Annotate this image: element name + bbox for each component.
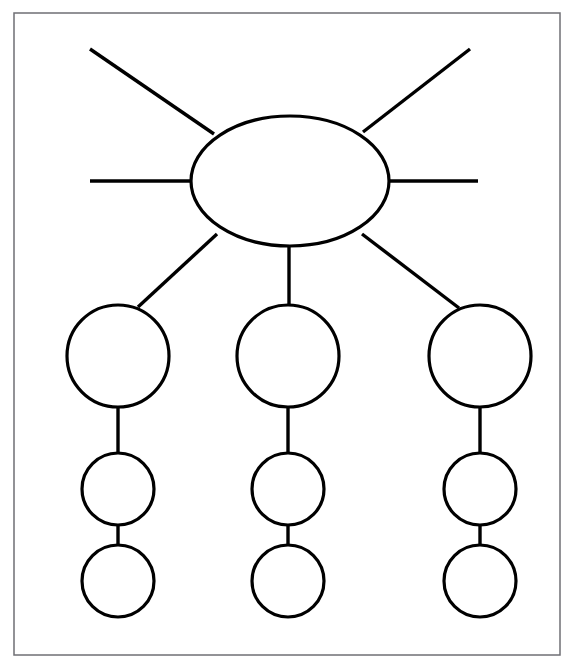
diagram-frame xyxy=(0,0,576,661)
node-branch-1-tertiary[interactable] xyxy=(82,545,154,617)
concept-map-svg xyxy=(0,0,576,661)
node-branch-2-tertiary[interactable] xyxy=(252,545,324,617)
node-branch-1-secondary[interactable] xyxy=(82,453,154,525)
node-branch-1-primary[interactable] xyxy=(67,305,169,407)
node-branch-2-secondary[interactable] xyxy=(252,453,324,525)
diagram-canvas xyxy=(0,0,576,661)
node-branch-3-primary[interactable] xyxy=(429,305,531,407)
node-branch-3-secondary[interactable] xyxy=(444,453,516,525)
node-branch-3-tertiary[interactable] xyxy=(444,545,516,617)
node-branch-2-primary[interactable] xyxy=(237,305,339,407)
node-center[interactable] xyxy=(191,116,389,246)
